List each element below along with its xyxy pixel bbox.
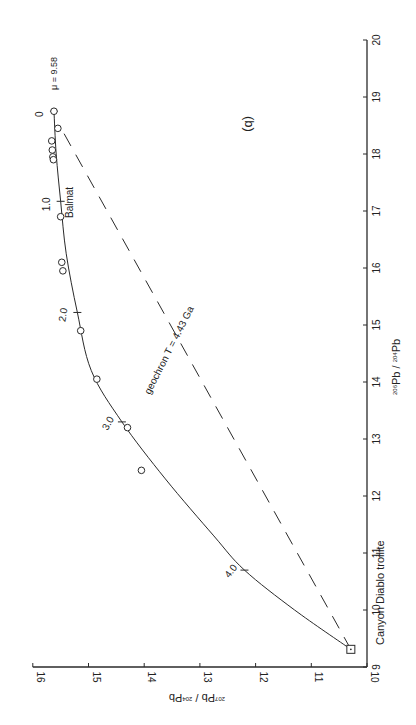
geochron-line xyxy=(60,126,351,650)
x-tick-label: 9 xyxy=(371,664,382,670)
growth-curve: 01.02.03.04.0 xyxy=(34,111,351,649)
sample-point xyxy=(60,268,67,275)
panel-label: (b) xyxy=(242,116,257,132)
sample-points xyxy=(48,108,144,474)
y-tick-label: 10 xyxy=(369,671,380,683)
age-label: 0 xyxy=(34,111,45,117)
sample-point xyxy=(50,156,57,163)
x-tick-label: 16 xyxy=(371,262,382,274)
sample-point xyxy=(58,259,65,266)
y-tick-label: 12 xyxy=(258,671,269,683)
sample-point xyxy=(57,213,64,220)
sample-point xyxy=(77,327,84,334)
sample-point xyxy=(49,147,56,154)
geochron-label: geochron T = 4.43 Ga xyxy=(142,304,196,396)
sample-point xyxy=(124,424,131,431)
x-tick-label: 19 xyxy=(371,91,382,103)
sample-point xyxy=(51,108,58,115)
lead-isotope-chart: 91011121314151617181920 10111213141516 0… xyxy=(0,0,416,725)
y-tick-label: 16 xyxy=(35,671,46,683)
x-tick-label: 14 xyxy=(371,376,382,388)
sample-point xyxy=(55,125,62,132)
x-tick-label: 17 xyxy=(371,205,382,217)
sample-point xyxy=(138,467,145,474)
balmat-label: Balmat xyxy=(64,187,75,218)
mu-label: μ = 9.58 xyxy=(49,57,59,90)
age-label: 3.0 xyxy=(100,414,117,432)
x-tick-label: 15 xyxy=(371,319,382,331)
age-label: 4.0 xyxy=(222,562,239,580)
x-tick-label: 18 xyxy=(371,148,382,160)
y-tick-label: 11 xyxy=(313,672,324,683)
reference-point xyxy=(347,645,355,653)
y-axis-title: 207Pb / 204Pb xyxy=(169,692,225,704)
y-tick-label: 14 xyxy=(146,671,157,683)
x-tick-label: 12 xyxy=(371,490,382,502)
y-tick-label: 15 xyxy=(91,671,102,683)
age-label: 1.0 xyxy=(41,197,52,211)
y-tick-label: 13 xyxy=(202,671,213,683)
sample-point xyxy=(94,376,101,383)
age-label: 2.0 xyxy=(56,307,69,323)
sample-point xyxy=(48,138,55,145)
y-axis: 10111213141516 xyxy=(33,663,380,683)
x-tick-label: 13 xyxy=(371,433,382,445)
x-axis-title: 206Pb / 204Pb xyxy=(390,339,402,395)
x-tick-label: 20 xyxy=(371,34,382,46)
canyon-diablo-label: Canyon Diablo troilite xyxy=(374,540,386,645)
